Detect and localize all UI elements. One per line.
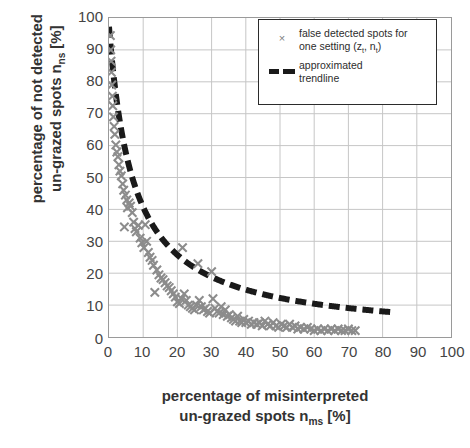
x-axis-title-line2: un-grazed spots nms [%]: [105, 406, 425, 426]
x-axis-title: percentage of misinterpreted un-grazed s…: [105, 386, 425, 425]
x-tick-10: 10: [122, 344, 162, 359]
x-tick-30: 30: [191, 344, 231, 359]
legend-entry-trendline: approximated trendline: [265, 59, 430, 86]
legend-label-scatter: false detected spots for one setting (zt…: [299, 27, 430, 54]
legend-entry-scatter: × false detected spots for one setting (…: [265, 27, 430, 54]
chart-figure: percentage of not detected un-grazed spo…: [0, 0, 470, 448]
x-marker-icon: ×: [265, 27, 299, 46]
x-axis-subscript: ms: [308, 416, 323, 427]
dashed-line-icon: [265, 59, 299, 78]
x-tick-80: 80: [363, 344, 403, 359]
x-tick-100: 100: [432, 344, 470, 359]
legend-label-trendline: approximated trendline: [299, 59, 430, 86]
chart-legend: × false detected spots for one setting (…: [258, 19, 437, 105]
x-axis-title-line1: percentage of misinterpreted: [162, 387, 369, 404]
x-tick-60: 60: [294, 344, 334, 359]
